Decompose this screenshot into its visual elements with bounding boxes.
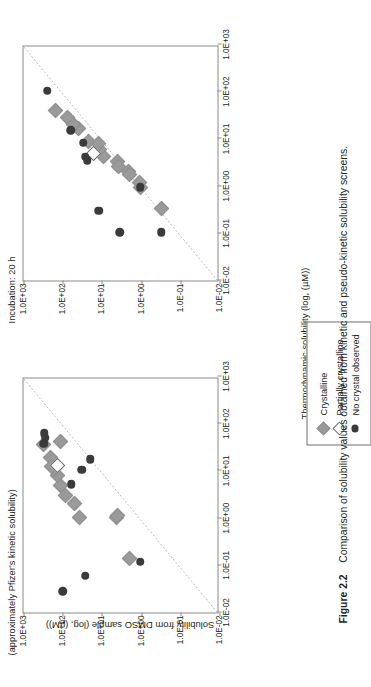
x-tick-mark (217, 232, 221, 233)
x-tick-mark (217, 90, 221, 91)
x-tick-label: 1.0E+03 (221, 29, 230, 60)
data-point-filled-dark-circle (81, 571, 90, 580)
legend-label-no-crystal-observed: No crystal observed (350, 334, 360, 415)
x-tick-label: 1.0E+02 (221, 76, 230, 107)
data-point-filled-dark-circle (42, 86, 51, 95)
data-point-filled-dark-circle (78, 138, 87, 147)
data-point-filled-dark-circle (157, 228, 166, 237)
data-point-filled-dark-circle (81, 152, 90, 161)
x-tick-label: 1.0E-01 (221, 218, 230, 247)
data-point-filled-dark-circle (94, 206, 103, 215)
data-point-filled-dark-circle (85, 454, 94, 463)
y-axis-title: Solubility from DMSO sample (log, (µM)) (0, 620, 268, 631)
filled-gray-diamond-icon (318, 421, 328, 435)
figure-caption: Figure 2.2 Comparison of solubility valu… (336, 63, 349, 623)
figure-caption-text: Comparison of solubility values obtained… (337, 145, 348, 562)
x-tick-label: 1.0E-02 (221, 266, 230, 295)
data-point-filled-dark-circle (58, 587, 67, 596)
data-point-filled-dark-circle (66, 126, 75, 135)
plot-area-left: 1.0E-021.0E-011.0E+001.0E+011.0E+021.0E+… (22, 377, 218, 613)
data-point-filled-dark-circle (67, 479, 76, 488)
chart-panel-left: (approximately Pfizer's kinetic solubili… (6, 359, 261, 659)
x-tick-label: 1.0E+03 (221, 361, 230, 392)
y-tick-label: 1.0E+00 (136, 283, 145, 314)
x-tick-mark (217, 137, 221, 138)
identity-line-left (23, 378, 217, 612)
y-tick-label: 1.0E+01 (97, 283, 106, 314)
x-tick-mark (217, 422, 221, 423)
x-tick-label: 1.0E+02 (221, 408, 230, 439)
data-point-filled-dark-circle (136, 557, 145, 566)
legend-item-crystalline: Crystalline (315, 334, 330, 435)
charts-row: (approximately Pfizer's kinetic solubili… (6, 27, 274, 659)
x-tick-mark (217, 611, 221, 612)
data-point-filled-dark-circle (115, 228, 124, 237)
x-tick-label: 1.0E+01 (221, 123, 230, 154)
y-tick-label: 1.0E-01 (175, 283, 184, 312)
x-tick-label: 1.0E+00 (221, 502, 230, 533)
x-tick-mark (217, 469, 221, 470)
chart-title-right: Incubation: 20 h (6, 256, 16, 323)
filled-dark-circle-icon (351, 421, 359, 435)
y-tick-label: 1.0E+03 (19, 283, 28, 314)
x-tick-label: 1.0E+01 (221, 455, 230, 486)
x-tick-mark (217, 375, 221, 376)
x-tick-label: 1.0E+00 (221, 170, 230, 201)
legend-label-crystalline: Crystalline (318, 372, 328, 415)
y-tick-label: 1.0E+02 (58, 283, 67, 314)
data-point-filled-dark-circle (77, 465, 86, 474)
data-point-filled-dark-circle (136, 182, 145, 191)
chart-panel-right: Incubation: 20 h 1.0E-021.0E-011.0E+001.… (6, 27, 261, 327)
x-tick-mark (217, 279, 221, 280)
figure-caption-number: Figure 2.2 (337, 574, 348, 623)
x-tick-mark (217, 564, 221, 565)
x-tick-label: 1.0E-01 (221, 550, 230, 579)
x-tick-mark (217, 43, 221, 44)
x-tick-mark (217, 517, 221, 518)
plot-area-right: 1.0E-021.0E-011.0E+001.0E+011.0E+021.0E+… (22, 45, 218, 281)
x-tick-mark (217, 185, 221, 186)
data-point-filled-dark-circle (40, 428, 49, 437)
